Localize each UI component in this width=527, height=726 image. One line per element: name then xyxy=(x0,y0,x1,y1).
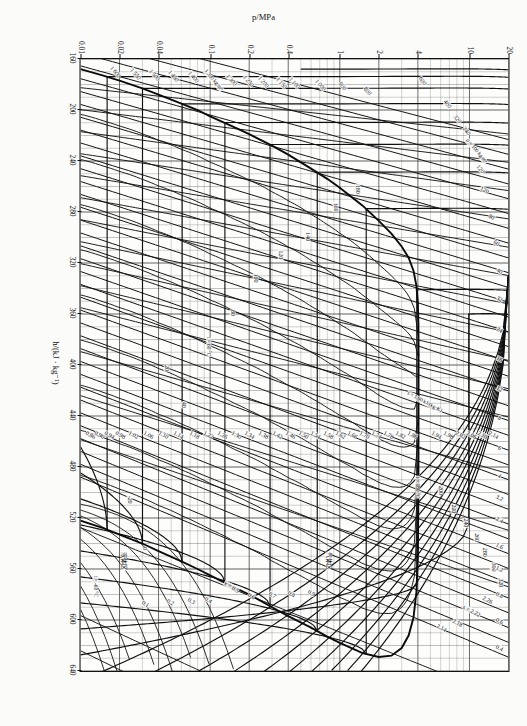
y-tick-label: 1 xyxy=(335,28,344,54)
y-tick-mark xyxy=(249,54,250,58)
chart-svg xyxy=(80,59,508,671)
y-tick-mark xyxy=(119,54,120,58)
y-tick-label: 0.04 xyxy=(154,28,163,54)
y-tick-label: 0.02 xyxy=(115,28,124,54)
isotherm-label: 280 xyxy=(481,547,487,557)
isotherm-label: 0 xyxy=(141,547,147,551)
isotherm-label: 140 xyxy=(304,232,310,242)
x-tick-label: 480 xyxy=(67,460,76,471)
y-tick-mark xyxy=(288,54,289,58)
x-tick-mark xyxy=(77,58,81,59)
isotherm-label: 160 xyxy=(332,202,338,212)
plot-area: t = -60 °C-2002040t = 60 °C8010012014016… xyxy=(79,58,509,672)
x-tick-label: 200 xyxy=(67,103,76,114)
y-tick-label: 4 xyxy=(413,28,422,54)
x-tick-label: 520 xyxy=(67,511,76,522)
region-label: 气体区 xyxy=(325,551,331,570)
isotherm-label: 220 xyxy=(450,504,456,514)
x-tick-label: 600 xyxy=(67,613,76,624)
isotherm-label: 80 xyxy=(229,310,235,317)
isotherm-label: t = 60 °C xyxy=(206,337,212,357)
x-tick-mark xyxy=(77,670,81,671)
y-axis-title: p/MPa xyxy=(252,12,275,22)
scanned-page: t = -60 °C-2002040t = 60 °C8010012014016… xyxy=(0,0,527,726)
y-tick-mark xyxy=(508,54,509,58)
isotherm-label: 20 xyxy=(163,365,169,372)
y-tick-label: 0.4 xyxy=(284,28,293,54)
x-tick-mark xyxy=(77,109,81,110)
x-tick-mark xyxy=(77,313,81,314)
x-axis-title: h/(kJ · kg⁻¹) xyxy=(50,0,60,726)
x-tick-mark xyxy=(77,262,81,263)
y-tick-mark xyxy=(210,54,211,58)
x-tick-mark xyxy=(77,568,81,569)
x-tick-mark xyxy=(77,211,81,212)
x-tick-mark xyxy=(77,364,81,365)
isentropic-curves xyxy=(80,59,508,657)
isotherm-label: t = 180 °C xyxy=(415,476,421,499)
x-tick-label: 280 xyxy=(67,205,76,216)
y-tick-label: 20 xyxy=(504,28,513,54)
y-tick-mark xyxy=(417,54,418,58)
grid-lines xyxy=(80,59,508,671)
y-tick-label: 0.01 xyxy=(76,28,85,54)
x-tick-mark xyxy=(77,466,81,467)
y-tick-label: 0.1 xyxy=(206,28,215,54)
y-tick-label: 10 xyxy=(465,28,474,54)
isotherm-label: 40 xyxy=(180,401,186,408)
isotherm-label: 240 xyxy=(462,518,468,528)
x-tick-label: 360 xyxy=(67,307,76,318)
isotherm-label: 200 xyxy=(437,486,443,496)
y-tick-label: 2 xyxy=(374,28,383,54)
y-tick-mark xyxy=(158,54,159,58)
isotherm-label: t = -60 °C xyxy=(92,576,98,598)
x-tick-mark xyxy=(77,160,81,161)
y-tick-mark xyxy=(378,54,379,58)
isotherm-label: 120 xyxy=(277,250,283,260)
region-label: 液体区 xyxy=(120,551,126,570)
x-tick-label: 240 xyxy=(67,154,76,165)
y-tick-label: 0.2 xyxy=(245,28,254,54)
isotherm-label: -20 xyxy=(126,495,132,504)
x-tick-label: 320 xyxy=(67,256,76,267)
x-tick-mark xyxy=(77,619,81,620)
isotherm-label: 100 xyxy=(252,273,258,283)
x-tick-mark xyxy=(77,517,81,518)
isotherm-label: 260 xyxy=(473,533,479,543)
rotated-figure: t = -60 °C-2002040t = 60 °C8010012014016… xyxy=(0,0,527,726)
y-tick-mark xyxy=(80,54,81,58)
isotherm-label: 320 xyxy=(497,578,503,588)
x-tick-label: 560 xyxy=(67,562,76,573)
chart-canvas xyxy=(80,59,508,671)
y-tick-mark xyxy=(339,54,340,58)
x-tick-label: 440 xyxy=(67,409,76,420)
x-tick-label: 400 xyxy=(67,358,76,369)
x-tick-label: 640 xyxy=(67,664,76,675)
x-tick-label: 160 xyxy=(67,52,76,63)
x-tick-mark xyxy=(77,415,81,416)
isotherm-label: 180 xyxy=(354,184,360,194)
y-tick-mark xyxy=(469,54,470,58)
